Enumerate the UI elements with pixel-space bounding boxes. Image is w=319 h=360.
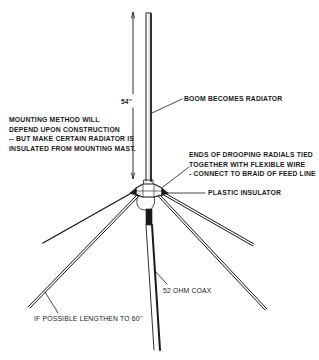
leader-radial-length [45, 292, 58, 313]
radial-ends-note-line: ENDS OF DROOPING RADIALS TIED [189, 150, 316, 160]
leader-radials-ends [163, 167, 189, 187]
dimension-line-54 [132, 12, 135, 179]
mounting-note-line: INSULATED FROM MOUNTING MAST. [9, 144, 136, 154]
radial-length-label: IF POSSIBLE LENGTHEN TO 60'' [34, 314, 143, 324]
radial-ends-note: ENDS OF DROOPING RADIALS TIED TOGETHER W… [189, 150, 316, 179]
radial-ends-note-line: TOGETHER WITH FLEXIBLE WIRE [189, 160, 316, 170]
braid-connection-wire [137, 196, 147, 210]
antenna-drawing [0, 0, 319, 360]
mounting-note: MOUNTING METHOD WILL DEPEND UPON CONSTRU… [9, 115, 136, 153]
coax-feed-line [146, 209, 160, 350]
insulator-label: PLASTIC INSULATOR [208, 188, 281, 198]
mounting-note-line: DEPEND UPON CONSTRUCTION [9, 125, 136, 135]
boom-label: BOOM BECOMES RADIATOR [184, 94, 282, 104]
dimension-label-54: 54'' [121, 97, 132, 107]
mounting-note-line: MOUNTING METHOD WILL [9, 115, 136, 125]
boom-radiator [146, 13, 151, 181]
mounting-note-line: -- BUT MAKE CERTAIN RADIATOR IS [9, 134, 136, 144]
antenna-diagram: 54'' MOUNTING METHOD WILL DEPEND UPON CO… [0, 0, 319, 360]
coax-label: 52 OHM COAX [163, 286, 212, 296]
radial-ends-note-line: - CONNECT TO BRAID OF FEED LINE [189, 169, 316, 179]
leader-boom [152, 99, 182, 113]
